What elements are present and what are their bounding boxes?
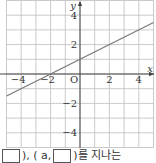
caption-text-2: a, — [41, 149, 51, 162]
x-axis-label: x — [147, 63, 153, 74]
y-tick-label: −2 — [62, 98, 77, 109]
y-tick-label: 2 — [71, 39, 77, 50]
caption-text-1: ), ( — [22, 149, 38, 162]
caption-text-3: )를 지나는 — [73, 149, 121, 162]
x-tick-label: −2 — [40, 74, 55, 85]
origin-label: O — [70, 74, 78, 85]
answer-box-2[interactable] — [53, 149, 71, 163]
problem-caption: ), ( a,)를 지나는 — [0, 149, 156, 163]
y-axis-arrow-icon — [78, 1, 82, 6]
x-tick-label: −4 — [11, 74, 26, 85]
answer-box-1[interactable] — [2, 149, 20, 163]
y-tick-label: 4 — [71, 10, 77, 21]
coordinate-plane: −4−22442−2−4Oxy — [0, 0, 156, 148]
y-axis-label: y — [69, 0, 76, 11]
y-tick-label: −4 — [62, 127, 77, 138]
x-tick-label: 2 — [106, 74, 112, 85]
x-tick-label: 4 — [136, 74, 142, 85]
tick-labels: −4−22442−2−4Oxy — [11, 0, 153, 138]
